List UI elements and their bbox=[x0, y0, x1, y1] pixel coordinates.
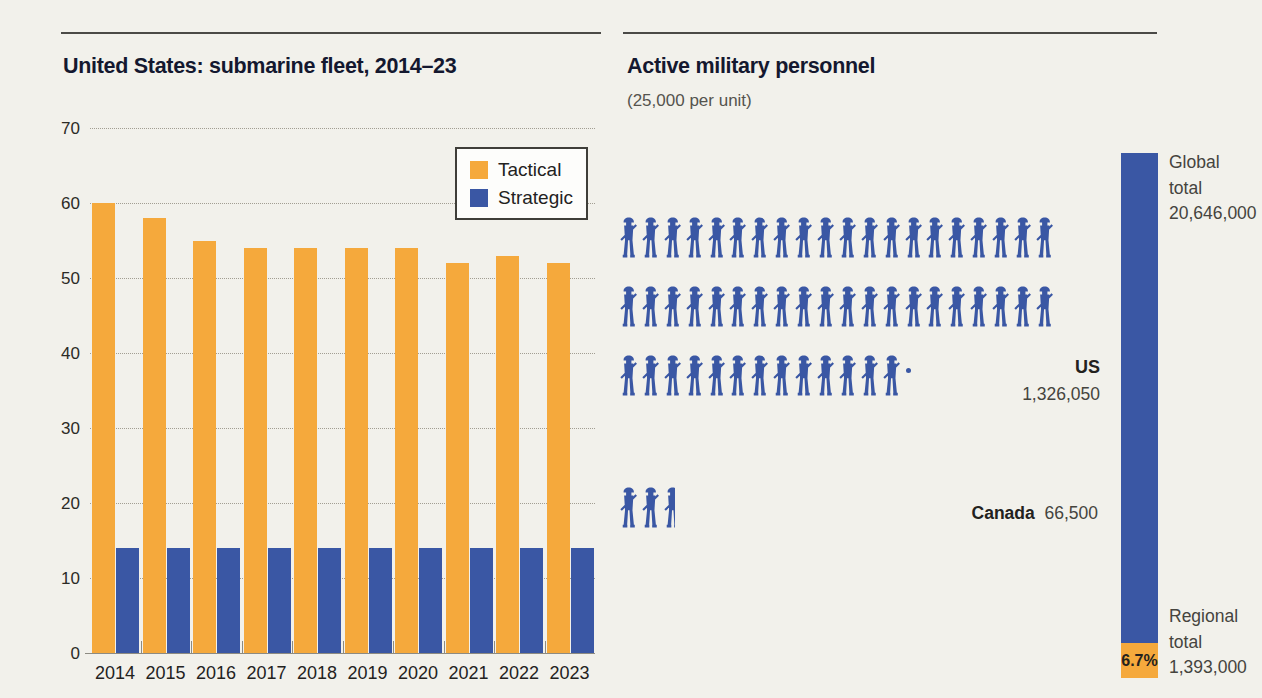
soldier-icon bbox=[641, 217, 661, 258]
soldier-icon bbox=[969, 286, 989, 327]
page: United States: submarine fleet, 2014–23 … bbox=[0, 0, 1262, 698]
x-axis-minor-tick bbox=[545, 641, 546, 653]
soldier-icon bbox=[707, 286, 727, 327]
x-axis-minor-tick bbox=[343, 641, 344, 653]
totals-bar: 6.7% bbox=[1121, 153, 1158, 678]
gridline-20 bbox=[90, 503, 595, 504]
canada-soldier-row-1 bbox=[619, 487, 675, 528]
legend-item-strategic: Strategic bbox=[470, 188, 573, 207]
gridline-40 bbox=[90, 353, 595, 354]
strategic-bar-2015 bbox=[167, 548, 190, 653]
canada-personnel-label: Canada 66,500 bbox=[880, 503, 1098, 524]
soldier-icon bbox=[663, 286, 683, 327]
legend-item-tactical: Tactical bbox=[470, 160, 573, 179]
soldier-icon bbox=[925, 217, 945, 258]
tactical-swatch-icon bbox=[470, 161, 488, 179]
tactical-bar-2014 bbox=[92, 203, 115, 653]
soldier-icon bbox=[750, 217, 770, 258]
tactical-bar-2020 bbox=[395, 248, 418, 653]
soldier-icon bbox=[707, 217, 727, 258]
soldier-icon bbox=[663, 217, 683, 258]
tactical-bar-2021 bbox=[446, 263, 469, 653]
soldier-icon bbox=[685, 286, 705, 327]
regional-label-line-2: total bbox=[1169, 630, 1247, 656]
global-label-line-2: total bbox=[1169, 176, 1257, 202]
y-tick-label-70: 70 bbox=[26, 119, 80, 139]
x-tick-label-2015: 2015 bbox=[138, 663, 194, 684]
soldier-icon bbox=[925, 286, 945, 327]
soldier-icon-partial bbox=[663, 487, 675, 528]
tactical-bar-2022 bbox=[496, 256, 519, 654]
strategic-bar-2023 bbox=[571, 548, 594, 653]
soldier-icon bbox=[947, 286, 967, 327]
soldier-icon bbox=[838, 355, 858, 396]
y-tick-label-30: 30 bbox=[26, 419, 80, 439]
x-tick-label-2019: 2019 bbox=[340, 663, 396, 684]
us-soldier-row-2 bbox=[619, 286, 1054, 327]
soldier-icon bbox=[816, 355, 836, 396]
strategic-bar-2019 bbox=[369, 548, 392, 653]
gridline-30 bbox=[90, 428, 595, 429]
soldier-icon bbox=[619, 217, 639, 258]
tactical-bar-2015 bbox=[143, 218, 166, 653]
soldier-icon bbox=[772, 286, 792, 327]
soldier-icon bbox=[860, 286, 880, 327]
x-tick-label-2014: 2014 bbox=[87, 663, 143, 684]
tactical-bar-2016 bbox=[193, 241, 216, 654]
soldier-icon bbox=[641, 355, 661, 396]
right-chart-subtitle: (25,000 per unit) bbox=[627, 91, 752, 111]
x-axis-minor-tick bbox=[444, 641, 445, 653]
soldier-icon bbox=[750, 286, 770, 327]
x-axis-minor-tick bbox=[494, 641, 495, 653]
strategic-bar-2017 bbox=[268, 548, 291, 653]
soldier-icon bbox=[947, 217, 967, 258]
soldier-icon bbox=[904, 217, 924, 258]
legend-label-tactical: Tactical bbox=[498, 160, 561, 179]
fraction-unit-dot bbox=[906, 368, 911, 373]
y-tick-label-20: 20 bbox=[26, 494, 80, 514]
canada-personnel-value: 66,500 bbox=[1044, 503, 1098, 523]
x-axis-minor-tick bbox=[292, 641, 293, 653]
gridline-50 bbox=[90, 278, 595, 279]
soldier-icon bbox=[707, 355, 727, 396]
soldier-icon bbox=[816, 286, 836, 327]
right-panel-top-rule bbox=[623, 32, 1157, 34]
soldier-icon bbox=[772, 217, 792, 258]
soldier-icon bbox=[969, 217, 989, 258]
soldier-icon bbox=[1013, 217, 1033, 258]
y-tick-label-60: 60 bbox=[26, 194, 80, 214]
strategic-bar-2021 bbox=[470, 548, 493, 653]
soldier-icon bbox=[1013, 286, 1033, 327]
soldier-icon bbox=[794, 217, 814, 258]
soldier-icon bbox=[728, 286, 748, 327]
us-personnel-label: US 1,326,050 bbox=[950, 357, 1100, 405]
y-tick-label-0: 0 bbox=[26, 644, 80, 664]
soldier-icon bbox=[860, 217, 880, 258]
soldier-icon bbox=[882, 217, 902, 258]
soldier-icon bbox=[685, 355, 705, 396]
y-tick-label-50: 50 bbox=[26, 269, 80, 289]
tactical-bar-2017 bbox=[244, 248, 267, 653]
us-soldier-row-3 bbox=[619, 355, 911, 396]
canada-country-name: Canada bbox=[972, 503, 1035, 523]
x-axis-minor-tick bbox=[393, 641, 394, 653]
right-chart-title: Active military personnel bbox=[627, 54, 875, 79]
x-tick-label-2016: 2016 bbox=[188, 663, 244, 684]
us-soldier-row-1 bbox=[619, 217, 1054, 258]
legend-box: TacticalStrategic bbox=[455, 147, 588, 220]
global-label-line-1: Global bbox=[1169, 150, 1257, 176]
left-panel-top-rule bbox=[61, 32, 601, 34]
soldier-icon bbox=[794, 355, 814, 396]
x-tick-label-2017: 2017 bbox=[239, 663, 295, 684]
strategic-bar-2020 bbox=[419, 548, 442, 653]
soldier-icon bbox=[860, 355, 880, 396]
soldier-icon bbox=[1035, 217, 1055, 258]
tactical-bar-2023 bbox=[547, 263, 570, 653]
soldier-icon bbox=[619, 286, 639, 327]
regional-label-line-1: Regional bbox=[1169, 604, 1247, 630]
strategic-bar-2014 bbox=[116, 548, 139, 653]
strategic-bar-2016 bbox=[217, 548, 240, 653]
tactical-bar-2018 bbox=[294, 248, 317, 653]
y-tick-label-40: 40 bbox=[26, 344, 80, 364]
soldier-icon bbox=[685, 217, 705, 258]
